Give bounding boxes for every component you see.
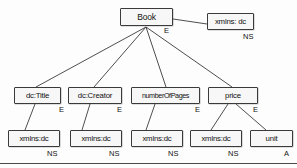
node-label: xmlns:dc xyxy=(19,135,48,143)
label-xmlns3-ns: NS xyxy=(168,150,178,158)
node-price[interactable]: price xyxy=(208,87,258,104)
label-unit-a: A xyxy=(284,150,289,158)
edge-dccreator-xmlns2 xyxy=(82,104,90,130)
node-label: numberOfPages xyxy=(142,92,189,99)
node-xmlns_4[interactable]: xmlns:dc xyxy=(190,130,242,147)
diagram-canvas: Bookxmlns: dcdc:Titledc:CreatornumberOfP… xyxy=(0,0,297,168)
edge-book-dccreator xyxy=(94,27,146,87)
node-label: unit xyxy=(266,135,278,143)
node-book[interactable]: Book xyxy=(120,8,173,26)
edge-price-xmlns4 xyxy=(211,104,228,130)
edge-book-price xyxy=(146,27,232,87)
label-xmlns-top-ns: NS xyxy=(243,33,253,41)
node-label: dc:Title xyxy=(26,92,49,100)
edge-book-numpages xyxy=(146,27,166,87)
label-xmlns4-ns: NS xyxy=(228,150,238,158)
node-label: xmlns:dc xyxy=(201,135,230,143)
label-xmlns1-ns: NS xyxy=(47,150,57,158)
node-dccreator[interactable]: dc:Creator xyxy=(68,87,122,104)
label-dctitle-e: E xyxy=(59,106,64,114)
edge-price-unit xyxy=(236,104,266,130)
node-label: dc:Creator xyxy=(78,92,112,100)
node-xmlns_3[interactable]: xmlns:dc xyxy=(131,130,183,147)
node-label: Book xyxy=(137,13,156,22)
node-label: xmlns: dc xyxy=(215,18,246,26)
edge-numpages-xmlns3 xyxy=(146,104,155,130)
bottom-rule xyxy=(0,163,297,164)
label-dccreator-e: E xyxy=(117,106,122,114)
label-xmlns2-ns: NS xyxy=(109,150,119,158)
edge-book-dctitle xyxy=(36,27,146,87)
node-xmlns_1[interactable]: xmlns:dc xyxy=(8,130,60,147)
node-numpages[interactable]: numberOfPages xyxy=(131,87,200,104)
label-book-e: E xyxy=(164,27,169,35)
node-xmlns_top[interactable]: xmlns: dc xyxy=(207,13,254,30)
edge-book-xmlns xyxy=(173,19,207,24)
node-xmlns_2[interactable]: xmlns:dc xyxy=(70,130,122,147)
node-label: price xyxy=(225,92,241,100)
edge-dctitle-xmlns1 xyxy=(25,104,35,130)
node-label: xmlns:dc xyxy=(81,135,110,143)
label-price-e: E xyxy=(253,106,258,114)
label-numpages-e: E xyxy=(195,106,200,114)
node-unit[interactable]: unit xyxy=(250,130,293,147)
node-dctitle[interactable]: dc:Title xyxy=(14,87,61,104)
node-label: xmlns:dc xyxy=(142,135,171,143)
